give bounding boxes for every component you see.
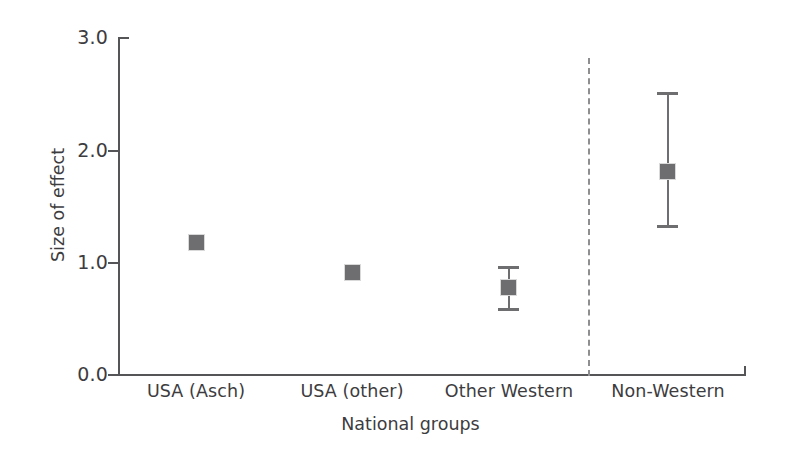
effect-size-scatter-chart: 0.0 1.0 2.0 3.0 Size of effect USA (Asch…: [0, 0, 785, 454]
y-tick-mark-0: [108, 374, 119, 376]
y-axis-top-cap-tick: [118, 37, 129, 39]
data-point-other-western: [500, 279, 517, 296]
data-point-usa-other: [344, 264, 361, 281]
error-bar-cap-lower-non-western: [657, 225, 678, 228]
y-axis-title: Size of effect: [48, 130, 68, 280]
data-point-non-western: [659, 163, 676, 180]
y-tick-label-3: 3.0: [38, 26, 108, 48]
x-axis-title-wrap: National groups: [0, 414, 785, 434]
y-axis-line: [118, 37, 120, 376]
y-tick-mark-2: [108, 150, 119, 152]
error-bar-line-non-western: [667, 93, 669, 228]
x-axis-line: [118, 374, 746, 376]
error-bar-cap-lower-other-western: [498, 308, 519, 311]
error-bar-cap-upper-non-western: [657, 92, 678, 95]
western-nonwestern-divider: [588, 58, 590, 376]
x-tick-label-non-western: Non-Western: [568, 381, 768, 401]
y-tick-mark-1: [108, 262, 119, 264]
x-axis-title: National groups: [341, 414, 479, 434]
x-axis-right-cap-tick: [744, 366, 746, 376]
error-bar-cap-upper-other-western: [498, 266, 519, 269]
data-point-usa-asch: [188, 234, 205, 251]
